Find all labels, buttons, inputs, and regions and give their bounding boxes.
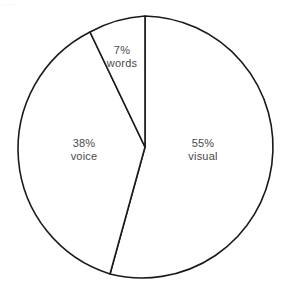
pie-label-voice-name: voice bbox=[56, 150, 112, 163]
pie-label-words-percent: 7% bbox=[96, 44, 148, 57]
pie-label-words-name: words bbox=[96, 57, 148, 70]
pie-label-voice: 38% voice bbox=[56, 137, 112, 163]
pie-label-visual-percent: 55% bbox=[174, 137, 232, 150]
pie-label-visual: 55% visual bbox=[174, 137, 232, 163]
pie-label-words: 7% words bbox=[96, 44, 148, 70]
pie-label-voice-percent: 38% bbox=[56, 137, 112, 150]
pie-chart-figure: ········ 7% words 38% voice 55% visual bbox=[0, 0, 288, 296]
pie-label-visual-name: visual bbox=[174, 150, 232, 163]
